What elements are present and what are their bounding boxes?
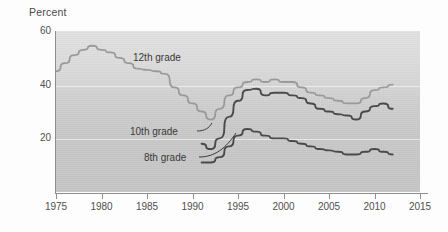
line-chart: Percent 604020 1975198019851990199520002…: [0, 0, 448, 232]
leader-lines: [0, 0, 448, 232]
series-label-8th-grade: 8th grade: [144, 152, 186, 163]
series-label-10th-grade: 10th grade: [130, 126, 178, 137]
series-label-12th-grade: 12th grade: [133, 52, 181, 63]
